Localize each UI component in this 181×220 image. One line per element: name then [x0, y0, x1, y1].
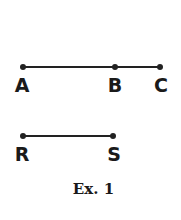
label-c: C	[154, 76, 168, 95]
point-c	[157, 64, 163, 70]
segment-rs	[23, 135, 114, 137]
point-a	[20, 64, 26, 70]
label-a: A	[15, 76, 30, 95]
label-r: R	[15, 145, 30, 164]
point-r	[20, 133, 26, 139]
label-b: B	[108, 76, 122, 95]
segment-abc	[23, 66, 161, 68]
figure-caption: Ex. 1	[0, 180, 181, 198]
point-s	[110, 133, 116, 139]
point-b	[112, 64, 118, 70]
label-s: S	[107, 145, 121, 164]
